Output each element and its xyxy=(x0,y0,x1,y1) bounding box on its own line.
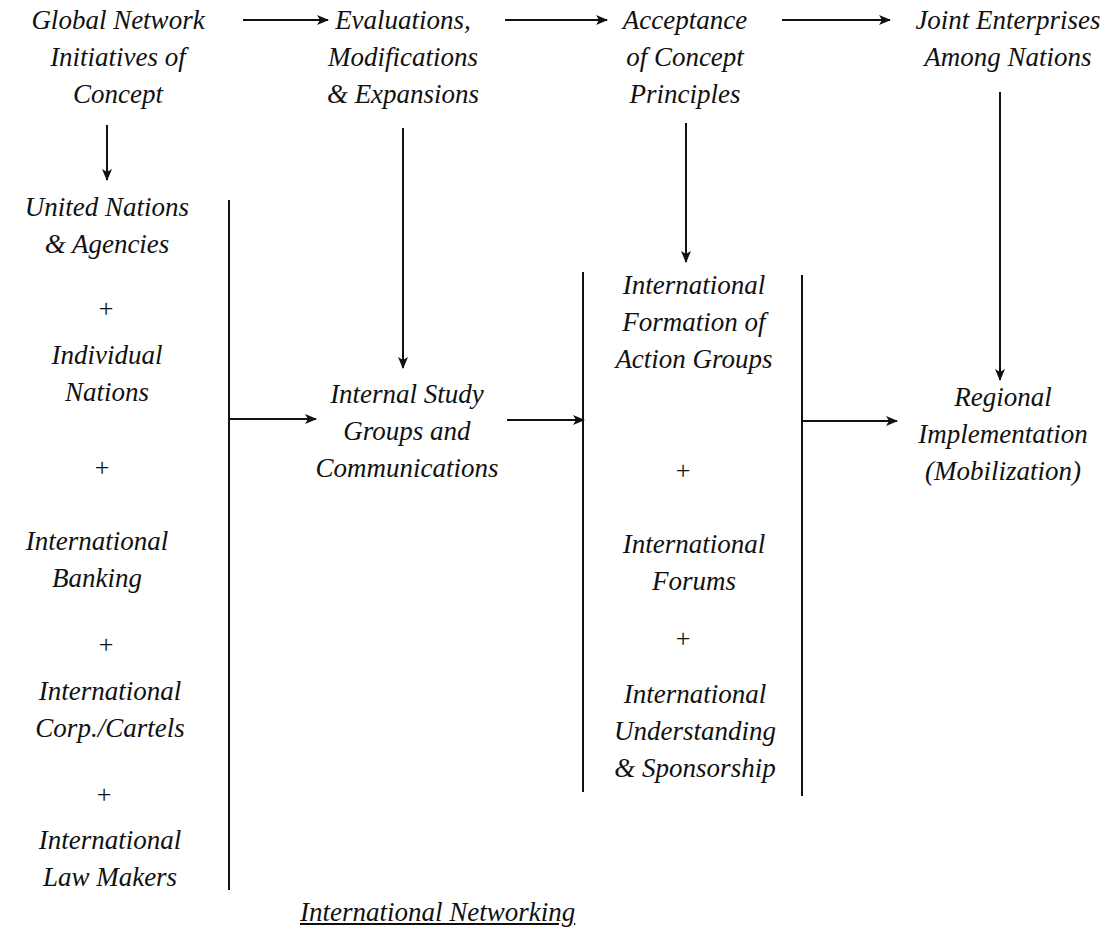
plus-sign: + xyxy=(84,780,124,810)
node-line: International xyxy=(20,673,200,710)
node-international-law-makers: International Law Makers xyxy=(20,822,200,896)
node-line: Evaluations, xyxy=(303,2,503,39)
node-line: Understanding xyxy=(590,713,800,750)
node-line: United Nations xyxy=(17,189,197,226)
node-line: & Sponsorship xyxy=(590,750,800,787)
plus-sign: + xyxy=(82,453,122,483)
node-internal-study-groups: Internal Study Groups and Communications xyxy=(302,376,512,487)
node-line: Action Groups xyxy=(594,341,794,378)
node-international-corp-cartels: International Corp./Cartels xyxy=(20,673,200,747)
node-line: Modifications xyxy=(303,39,503,76)
node-line: Internal Study xyxy=(302,376,512,413)
node-line: Implementation xyxy=(898,416,1108,453)
node-global-network: Global Network Initiatives of Concept xyxy=(18,2,218,113)
node-line: & Agencies xyxy=(17,226,197,263)
diagram-caption: International Networking xyxy=(300,897,575,928)
node-action-groups: International Formation of Action Groups xyxy=(594,267,794,378)
node-line: International xyxy=(12,523,182,560)
node-international-forums: International Forums xyxy=(594,526,794,600)
node-line: Global Network xyxy=(18,2,218,39)
node-line: & Expansions xyxy=(303,76,503,113)
plus-sign: + xyxy=(663,624,703,654)
node-line: Joint Enterprises xyxy=(893,2,1120,39)
node-acceptance: Acceptance of Concept Principles xyxy=(590,2,780,113)
plus-sign: + xyxy=(86,630,126,660)
node-line: Among Nations xyxy=(893,39,1120,76)
node-line: Individual xyxy=(17,337,197,374)
node-line: Nations xyxy=(17,374,197,411)
node-evaluations: Evaluations, Modifications & Expansions xyxy=(303,2,503,113)
node-line: Principles xyxy=(590,76,780,113)
node-joint-enterprises: Joint Enterprises Among Nations xyxy=(893,2,1120,76)
node-line: International xyxy=(590,676,800,713)
node-line: International xyxy=(594,267,794,304)
node-international-banking: International Banking xyxy=(12,523,182,597)
node-line: Forums xyxy=(594,563,794,600)
node-line: Corp./Cartels xyxy=(20,710,200,747)
node-line: Groups and xyxy=(302,413,512,450)
node-line: Formation of xyxy=(594,304,794,341)
node-line: (Mobilization) xyxy=(898,453,1108,490)
node-line: Initiatives of xyxy=(18,39,218,76)
node-line: Banking xyxy=(12,560,182,597)
node-line: Regional xyxy=(898,379,1108,416)
node-regional-implementation: Regional Implementation (Mobilization) xyxy=(898,379,1108,490)
node-line: International xyxy=(594,526,794,563)
node-line: Concept xyxy=(18,76,218,113)
node-line: Communications xyxy=(302,450,512,487)
node-individual-nations: Individual Nations xyxy=(17,337,197,411)
node-line: of Concept xyxy=(590,39,780,76)
node-united-nations: United Nations & Agencies xyxy=(17,189,197,263)
plus-sign: + xyxy=(663,456,703,486)
node-understanding-sponsorship: International Understanding & Sponsorshi… xyxy=(590,676,800,787)
node-line: Acceptance xyxy=(590,2,780,39)
node-line: Law Makers xyxy=(20,859,200,896)
plus-sign: + xyxy=(86,294,126,324)
node-line: International xyxy=(20,822,200,859)
